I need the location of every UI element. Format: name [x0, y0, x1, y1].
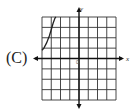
y-axis-down-arrow-icon: [77, 104, 82, 109]
x-axis-left-arrow-icon: [33, 56, 38, 61]
x-axis-label: x: [125, 55, 130, 63]
graph: x y 0: [0, 0, 137, 112]
origin-label: 0: [76, 59, 79, 65]
y-axis-label: y: [79, 5, 84, 13]
series: [42, 17, 56, 50]
series-curve: [42, 17, 56, 50]
x-axis-right-arrow-icon: [119, 56, 124, 61]
